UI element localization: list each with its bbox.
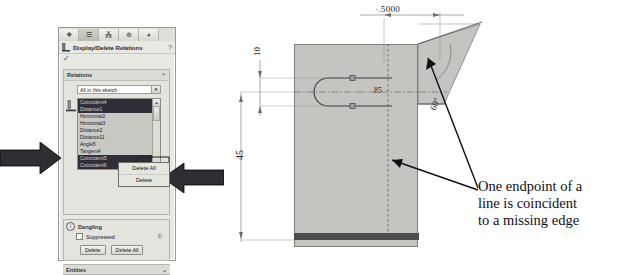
list-item[interactable]: Tangent4 bbox=[78, 148, 154, 155]
annotation-callout: One endpoint of a line is coincident to … bbox=[478, 178, 618, 229]
info-icon: i bbox=[66, 222, 75, 231]
configuration-manager-tab[interactable]: ⁂ bbox=[99, 29, 119, 41]
list-item[interactable]: Angle5 bbox=[78, 141, 154, 148]
dim-10-arrow-top bbox=[258, 71, 262, 78]
list-item[interactable]: Distance11 bbox=[78, 134, 154, 141]
context-menu-delete-all[interactable]: Delete All bbox=[119, 163, 169, 175]
annotation-line-3: to a missing edge bbox=[478, 212, 618, 229]
suppressed-checkbox-row[interactable]: Suppressed bbox=[76, 233, 115, 240]
dangling-group-label: Dangling bbox=[78, 224, 102, 230]
dim-45-arrow-top bbox=[239, 95, 243, 102]
part-outline-svg bbox=[232, 0, 492, 266]
left-pointer-arrow-top bbox=[0, 142, 62, 174]
relations-filter-select[interactable]: All in this sketch ▼ bbox=[77, 85, 161, 94]
accept-check-icon[interactable]: ✓ bbox=[63, 55, 70, 63]
feature-manager-icon: ❖ bbox=[66, 31, 72, 38]
dangling-group-header: i Dangling bbox=[66, 222, 102, 231]
context-menu-delete[interactable]: Delete bbox=[119, 175, 169, 186]
list-item[interactable]: Distance1 bbox=[78, 106, 154, 113]
height-dimension-top-label[interactable]: 10 bbox=[252, 47, 262, 56]
dangling-group: i Dangling Suppressed ① Delete Delete Al… bbox=[63, 219, 170, 261]
configuration-manager-icon: ⁂ bbox=[105, 31, 112, 38]
scroll-up-icon[interactable]: ▲ bbox=[153, 99, 160, 105]
list-item[interactable]: Distance2 bbox=[78, 127, 154, 134]
relations-group: Relations ⌃ All in this sketch ▼ Coincid… bbox=[63, 69, 170, 215]
suppressed-checkbox[interactable] bbox=[76, 233, 83, 240]
relations-group-header[interactable]: Relations ⌃ bbox=[64, 70, 169, 81]
delete-button[interactable]: Delete bbox=[80, 245, 106, 255]
annotation-line-2: line is coincident bbox=[478, 195, 618, 212]
help-icon[interactable]: ? bbox=[168, 44, 172, 51]
dim-45-arrow-bottom bbox=[239, 232, 243, 239]
list-item[interactable]: Horizontal3 bbox=[78, 120, 154, 127]
leader-line-lower bbox=[392, 160, 478, 190]
property-manager-panel[interactable]: ❖ ☰ ⁂ ⊕ ◕ Display/Delete Relations ? ✓ bbox=[58, 27, 176, 261]
slot-dimension-label[interactable]: 85 bbox=[374, 86, 382, 95]
property-manager-icon: ☰ bbox=[86, 31, 92, 38]
relations-filter-value: All in this sketch bbox=[80, 87, 117, 93]
cad-drawing-area[interactable]: ·.5000 10 45 85 60° bbox=[232, 0, 492, 266]
panel-title-bar: Display/Delete Relations bbox=[59, 41, 175, 54]
right-pointer-arrow-bottom bbox=[162, 163, 224, 193]
height-dimension-left-label[interactable]: 45 bbox=[234, 150, 245, 160]
endpoint-handle-top[interactable] bbox=[350, 76, 355, 81]
list-item[interactable]: Horizontal2 bbox=[78, 113, 154, 120]
dimxpert-manager-tab[interactable]: ⊕ bbox=[119, 29, 139, 41]
relations-group-label: Relations bbox=[67, 72, 92, 78]
dangling-buttons: Delete Delete All bbox=[80, 245, 143, 255]
relations-context-menu[interactable]: Delete All Delete bbox=[118, 162, 170, 187]
feature-manager-tab[interactable]: ❖ bbox=[59, 29, 79, 41]
relation-type-icon bbox=[66, 100, 76, 112]
dimxpert-manager-icon: ⊕ bbox=[126, 31, 132, 38]
list-item[interactable]: Coincident4 bbox=[78, 99, 154, 106]
scrollbar-thumb[interactable] bbox=[153, 106, 160, 121]
width-dimension-label[interactable]: ·.5000 bbox=[375, 4, 400, 14]
suppressed-label: Suppressed bbox=[86, 234, 115, 240]
endpoint-handle-bottom[interactable] bbox=[350, 104, 355, 109]
dim-arrow-right bbox=[433, 13, 440, 17]
panel-title: Display/Delete Relations bbox=[73, 44, 142, 51]
entities-group-label: Entities bbox=[66, 267, 86, 273]
chevron-down-icon[interactable]: ▼ bbox=[151, 86, 160, 93]
display-manager-tab[interactable]: ◕ bbox=[139, 29, 159, 41]
property-manager-tab[interactable]: ☰ bbox=[79, 29, 99, 41]
entities-group-header[interactable]: Entities ⌄ bbox=[63, 264, 170, 275]
property-manager-tab-strip[interactable]: ❖ ☰ ⁂ ⊕ ◕ bbox=[59, 28, 175, 42]
annotation-line-1: One endpoint of a bbox=[478, 178, 618, 195]
display-manager-icon: ◕ bbox=[146, 31, 150, 38]
relations-collapse-icon[interactable]: ⌃ bbox=[161, 72, 166, 79]
dangling-hint-icon: ① bbox=[157, 232, 162, 239]
dim-10-arrow-bottom bbox=[258, 106, 262, 113]
entities-collapse-icon[interactable]: ⌄ bbox=[162, 266, 167, 273]
relations-icon bbox=[62, 43, 70, 52]
leader-arrow-lower bbox=[392, 159, 403, 168]
delete-all-button[interactable]: Delete All bbox=[111, 245, 144, 255]
